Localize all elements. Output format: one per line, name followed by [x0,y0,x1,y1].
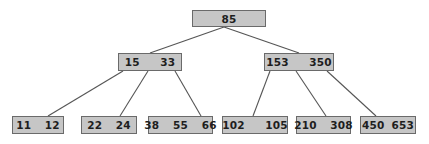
edge-right-leaf6 [327,71,376,116]
leaf-node-6: 450 653 [360,116,416,134]
leaf-node-4: 102 105 [222,116,288,134]
edge-left-leaf2 [120,71,148,116]
leaf-node-5: 210 308 [296,116,351,134]
root-node: 85 [192,10,266,27]
internal-node-right: 153 350 [264,53,334,71]
edge-left-leaf1 [48,71,123,116]
internal-node-left: 15 33 [118,53,182,71]
edge-left-leaf3 [175,71,201,116]
edge-right-leaf5 [296,71,326,116]
edge-right-leaf4 [253,71,270,116]
edge-root-right [224,27,299,53]
leaf-node-1: 11 12 [12,116,64,134]
edge-root-left [150,27,224,53]
leaf-node-3: 38 55 66 [148,116,213,134]
leaf-node-2: 22 24 [81,116,137,134]
